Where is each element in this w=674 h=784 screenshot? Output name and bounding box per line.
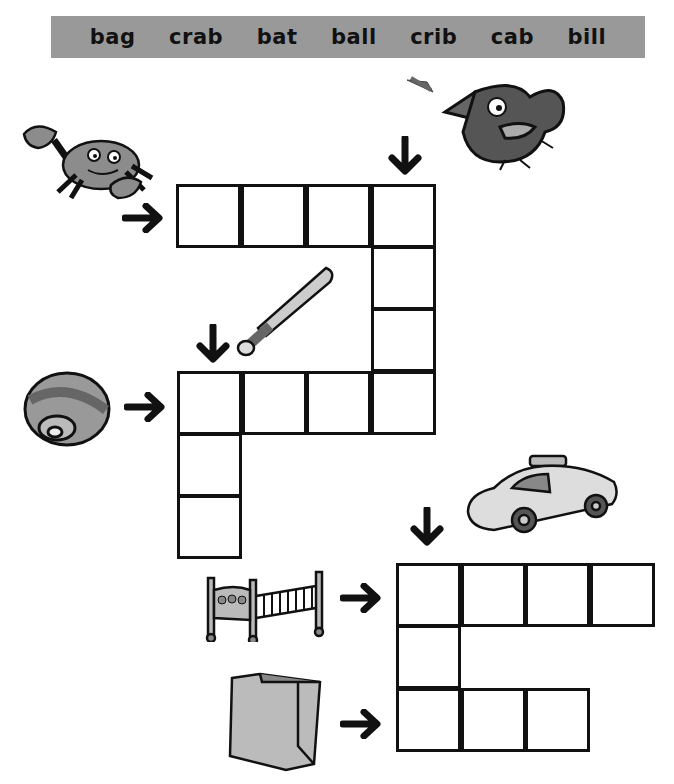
word-cab: cab: [491, 25, 534, 49]
crib-cell-3[interactable]: [525, 563, 590, 627]
crib-picture-icon: [204, 570, 328, 642]
crab-picture-icon: [16, 120, 161, 200]
bat-cell-3[interactable]: [177, 495, 242, 559]
ball-cell-2[interactable]: [242, 371, 307, 435]
arrow-right-icon: [340, 583, 384, 613]
ball-cell-3[interactable]: [306, 371, 371, 435]
bill-cell-3[interactable]: [371, 308, 436, 372]
crib-cell-4[interactable]: [590, 563, 655, 627]
word-bat: bat: [257, 25, 298, 49]
arrow-down-icon: [388, 136, 422, 176]
crab-cell-1[interactable]: [176, 184, 241, 248]
word-bill: bill: [567, 25, 606, 49]
arrow-down-icon: [196, 324, 230, 364]
bill-cell-2[interactable]: [371, 246, 436, 310]
ball-cell-4[interactable]: [371, 371, 436, 435]
arrow-right-icon: [340, 709, 384, 739]
bag-cell-3[interactable]: [525, 688, 590, 752]
ball-picture-icon: [22, 370, 112, 448]
cab-picture-icon: [464, 454, 620, 536]
bag-cell-1[interactable]: [396, 688, 461, 752]
word-crab: crab: [169, 25, 223, 49]
crab-cell-3[interactable]: [306, 184, 371, 248]
bag-picture-icon: [228, 672, 324, 772]
word-bank: bag crab bat ball crib cab bill: [51, 16, 645, 58]
crib-cell-1[interactable]: [396, 563, 461, 627]
word-crib: crib: [410, 25, 457, 49]
bat-picture-icon: [236, 262, 340, 358]
word-bag: bag: [90, 25, 136, 49]
crab-cell-2[interactable]: [241, 184, 306, 248]
arrow-right-icon: [124, 392, 168, 422]
bag-cell-2[interactable]: [461, 688, 526, 752]
cab-cell-2[interactable]: [396, 625, 461, 689]
ball-cell-1[interactable]: [177, 371, 242, 435]
arrow-right-icon: [122, 203, 166, 233]
bird-picture-icon: [405, 72, 570, 172]
crib-cell-2[interactable]: [461, 563, 526, 627]
word-ball: ball: [331, 25, 377, 49]
crab-cell-4[interactable]: [371, 184, 436, 248]
arrow-down-icon: [410, 507, 444, 547]
bat-cell-2[interactable]: [177, 433, 242, 497]
